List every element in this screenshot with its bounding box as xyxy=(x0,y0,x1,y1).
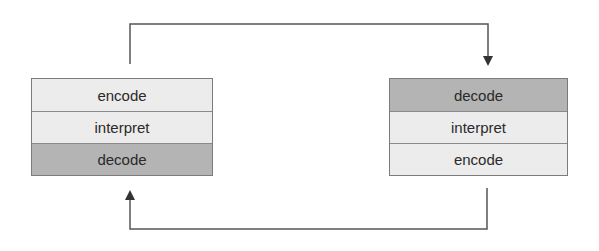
right-layer-decode: decode xyxy=(390,79,567,111)
arrow-right-to-left xyxy=(130,188,487,229)
left-layer-encode: encode xyxy=(32,79,212,111)
left-layer-decode: decode xyxy=(32,143,212,175)
left-stack: encode interpret decode xyxy=(31,78,213,176)
right-layer-interpret: interpret xyxy=(390,111,567,143)
right-layer-encode: encode xyxy=(390,143,567,175)
arrow-left-to-right xyxy=(130,24,488,64)
right-stack: decode interpret encode xyxy=(389,78,568,176)
left-layer-interpret: interpret xyxy=(32,111,212,143)
